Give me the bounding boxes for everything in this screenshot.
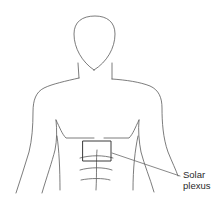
head-outline: [74, 16, 115, 70]
label-line-2: plexus: [183, 180, 210, 191]
arm-inner-left: [42, 120, 57, 193]
arm-inner-right: [139, 120, 154, 192]
torso-side-right: [133, 136, 138, 190]
torso-side-left: [57, 136, 60, 190]
neck-left: [78, 63, 79, 78]
label-line-1: Solar: [183, 169, 210, 180]
shoulder-right: [112, 79, 178, 176]
solar-plexus-label: Solar plexus: [183, 169, 210, 191]
ab-line-3: [81, 179, 110, 181]
ab-line-2: [80, 168, 112, 170]
pec-right: [104, 120, 139, 138]
pec-left: [56, 120, 94, 138]
